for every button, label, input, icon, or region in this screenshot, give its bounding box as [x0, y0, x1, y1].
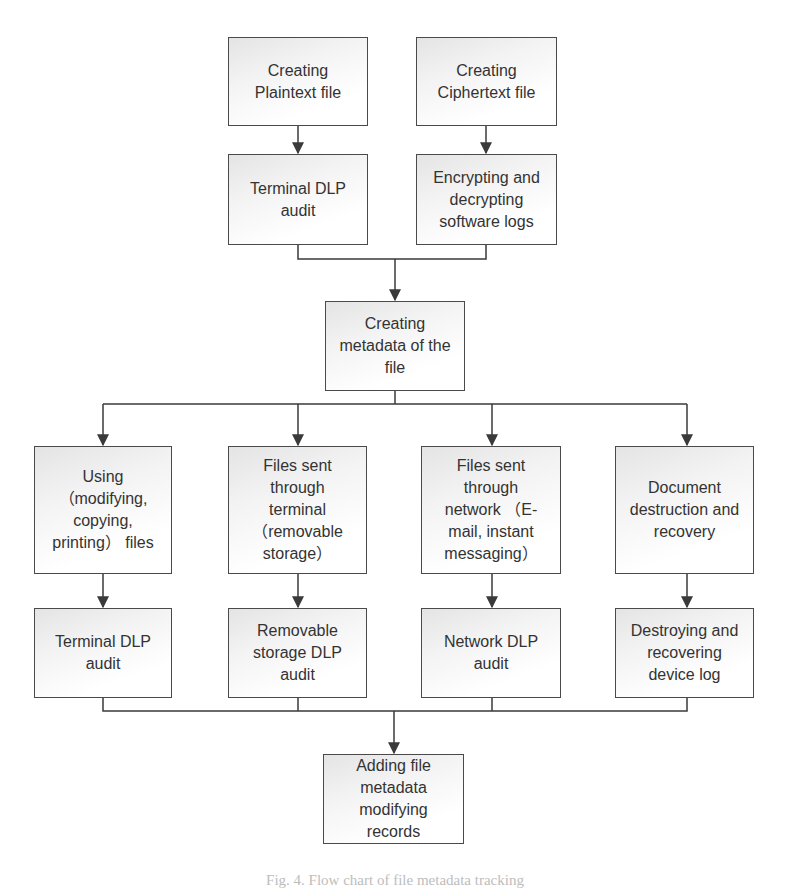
- node-add-metadata-records: Adding file metadata modifying records: [323, 754, 464, 844]
- node-using-files: Using （modifying, copying, printing） fil…: [34, 446, 172, 574]
- node-removable-dlp-audit: Removable storage DLP audit: [228, 608, 367, 698]
- node-doc-destruction: Document destruction and recovery: [615, 446, 754, 574]
- node-sent-network: Files sent through network （E- mail, ins…: [421, 446, 561, 574]
- node-encrypt-decrypt-logs: Encrypting and decrypting software logs: [416, 154, 557, 245]
- node-create-plaintext: Creating Plaintext file: [228, 37, 368, 126]
- figure-caption: Fig. 4. Flow chart of file metadata trac…: [0, 872, 790, 889]
- node-create-ciphertext: Creating Ciphertext file: [416, 37, 557, 126]
- node-network-dlp-audit: Network DLP audit: [421, 608, 561, 698]
- node-destroy-recover-log: Destroying and recovering device log: [615, 608, 754, 698]
- node-create-metadata: Creating metadata of the file: [325, 301, 465, 391]
- node-sent-terminal: Files sent through terminal （removable s…: [228, 446, 367, 574]
- merge-line-top: [298, 244, 486, 259]
- merge-line-bottom: [103, 697, 687, 711]
- node-terminal-dlp-audit-bottom: Terminal DLP audit: [34, 608, 172, 698]
- node-terminal-dlp-audit-top: Terminal DLP audit: [228, 154, 368, 245]
